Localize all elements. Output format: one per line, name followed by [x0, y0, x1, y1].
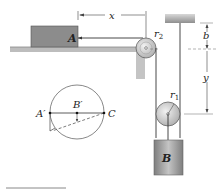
ceiling-support [165, 14, 195, 23]
table-surface [10, 47, 145, 79]
dimension-x: x [78, 10, 146, 42]
y-label: y [202, 72, 209, 83]
arrow-icon [78, 37, 82, 40]
pulley-r1: r1 [156, 89, 180, 140]
b-prime-label: B′ [72, 99, 83, 110]
r1-label: r1 [170, 89, 179, 102]
block-a: A [31, 26, 78, 47]
c-label: C [108, 108, 116, 119]
geometry-inset: A′ B′ C [35, 85, 116, 139]
pulley-r2: r2 [136, 28, 163, 58]
x-label: x [109, 10, 115, 21]
r2-label: r2 [154, 28, 163, 41]
block-b: B [154, 140, 183, 175]
block-b-label: B [161, 152, 171, 165]
pulley-system-diagram: A x r2 r1 B [0, 0, 217, 189]
a-prime-label: A′ [35, 108, 46, 119]
b-label: b [203, 30, 209, 41]
block-a-label: A [67, 32, 77, 45]
